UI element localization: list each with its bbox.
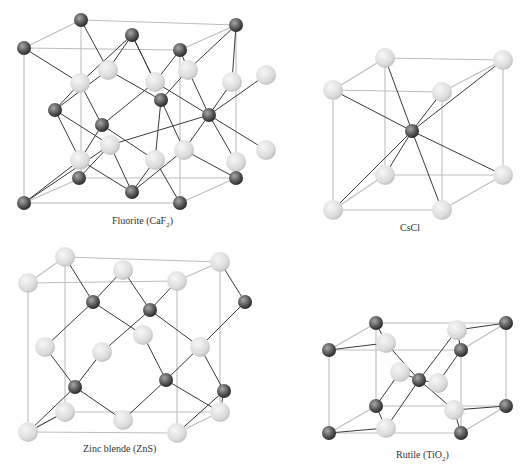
fluorite-cation-atom (202, 108, 216, 122)
fluorite-anion-atom (100, 135, 120, 155)
zincblende-anion-atom (113, 260, 133, 280)
fluorite-cation-atom (17, 41, 31, 55)
zincblende-anion-atom (55, 402, 75, 422)
zincblende-anion-atom (167, 271, 187, 291)
fluorite-bond (24, 145, 110, 203)
cscl-anion-atom (432, 200, 452, 220)
rutile-cation-atom (369, 399, 383, 413)
atoms (17, 13, 513, 443)
zincblende-anion-atom (35, 337, 55, 357)
cscl-bond (412, 60, 503, 131)
zincblende-anion-atom (167, 423, 187, 443)
label-zinc-blende: Zinc blende (ZnS) (83, 443, 156, 454)
fluorite-anion-atom (70, 150, 90, 170)
fluorite-cation-atom (74, 13, 88, 27)
zincblende-anion-atom (210, 252, 230, 272)
fluorite-cation-atom (95, 118, 109, 132)
fluorite-anion-atom (174, 140, 194, 160)
rutile-cation-atom (412, 373, 426, 387)
fluorite-bond (209, 115, 266, 150)
rutile-anion-atom (376, 418, 396, 438)
cscl-cell-edge (442, 60, 503, 92)
zincblende-cation-atom (86, 295, 100, 309)
zincblende-anion-atom (18, 422, 38, 442)
zincblende-anion-atom (190, 337, 210, 357)
cscl-cell-edge (333, 90, 442, 92)
label-rutile: Rutile (TiO2) (396, 449, 449, 463)
fluorite-cation-atom (173, 43, 187, 57)
zincblende-cell-edge (65, 257, 220, 262)
fluorite-anion-atom (98, 60, 118, 80)
zincblende-anion-atom (113, 410, 133, 430)
rutile-cation-atom (499, 316, 513, 330)
cscl-anion-atom (323, 200, 343, 220)
fluorite-cell-edge (180, 178, 236, 203)
fluorite-cation-atom (125, 185, 139, 199)
fluorite-cation-atom (229, 171, 243, 185)
fluorite-anion-atom (256, 140, 276, 160)
fluorite-anion-atom (178, 60, 198, 80)
zincblende-cation-atom (159, 373, 173, 387)
crystal-structures-diagram (0, 0, 529, 474)
cscl-bond (412, 131, 503, 175)
fluorite-cell-edge (24, 20, 81, 48)
fluorite-anion-atom (222, 72, 242, 92)
rutile-anion-atom (390, 362, 410, 382)
rutile-anion-atom (428, 373, 448, 393)
cscl-cation-atom (405, 124, 419, 138)
zincblende-cation-atom (217, 384, 231, 398)
cscl-anion-atom (375, 48, 395, 68)
rutile-cell-edge (461, 406, 506, 433)
fluorite-cell-edge (24, 178, 81, 203)
zincblende-anion-atom (55, 247, 75, 267)
cscl-bond (385, 58, 412, 131)
rutile-cation-atom (454, 343, 468, 357)
cscl-anion-atom (493, 50, 513, 70)
rutile-cell-edge (329, 323, 376, 350)
rutile-cation-atom (454, 426, 468, 440)
fluorite-cation-atom (72, 171, 86, 185)
zincblende-cation-atom (68, 380, 82, 394)
fluorite-bond (102, 82, 155, 125)
zincblende-anion-atom (18, 273, 38, 293)
fluorite-anion-atom (145, 150, 165, 170)
rutile-cell-edge (329, 406, 376, 433)
fluorite-cell-edge (180, 25, 236, 50)
zincblende-cation-atom (143, 303, 157, 317)
label-cscl: CsCl (400, 222, 420, 233)
fluorite-anion-atom (226, 152, 246, 172)
fluorite-cation-atom (229, 18, 243, 32)
cscl-anion-atom (432, 82, 452, 102)
rutile-anion-atom (376, 333, 396, 353)
zincblende-anion-atom (92, 342, 112, 362)
zincblende-cation-atom (238, 295, 252, 309)
fluorite-cell-edge (81, 20, 236, 25)
fluorite-anion-atom (70, 73, 90, 93)
fluorite-cation-atom (17, 196, 31, 210)
rutile-cation-atom (499, 399, 513, 413)
rutile-cation-atom (322, 343, 336, 357)
cscl-bond (333, 131, 412, 210)
fluorite-cation-atom (125, 28, 139, 42)
fluorite-cation-atom (48, 103, 62, 117)
rutile-cation-atom (322, 426, 336, 440)
rutile-cell-edge (461, 323, 506, 350)
zincblende-anion-atom (133, 325, 153, 345)
cscl-anion-atom (493, 165, 513, 185)
fluorite-cation-atom (154, 93, 168, 107)
rutile-anion-atom (447, 320, 467, 340)
cscl-anion-atom (375, 165, 395, 185)
fluorite-anion-atom (256, 65, 276, 85)
cscl-bond (333, 90, 412, 131)
fluorite-cell-edge (24, 48, 180, 50)
rutile-anion-atom (444, 400, 464, 420)
label-fluorite: Fluorite (CaF2) (112, 215, 173, 229)
zincblende-cell-edge (28, 432, 177, 433)
rutile-cation-atom (369, 316, 383, 330)
fluorite-cation-atom (173, 196, 187, 210)
fluorite-anion-atom (145, 72, 165, 92)
cscl-cell-edge (442, 175, 503, 210)
cscl-anion-atom (323, 80, 343, 100)
cscl-cell-edge (385, 58, 503, 60)
zincblende-cell-edge (28, 281, 177, 283)
